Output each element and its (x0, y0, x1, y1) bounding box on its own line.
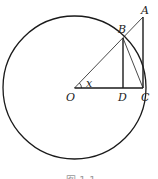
label-O: O (66, 91, 75, 104)
segment-OA (75, 17, 144, 88)
label-D: D (117, 91, 127, 104)
label-A: A (140, 4, 149, 17)
label-C: C (141, 91, 150, 104)
angle-label-x: x (86, 77, 93, 90)
figure-caption: 图 1-1 (66, 175, 96, 179)
geometry-diagram: A B O D C x 图 1-1 (0, 0, 158, 179)
label-B: B (117, 23, 126, 36)
angle-arc (79, 83, 81, 88)
